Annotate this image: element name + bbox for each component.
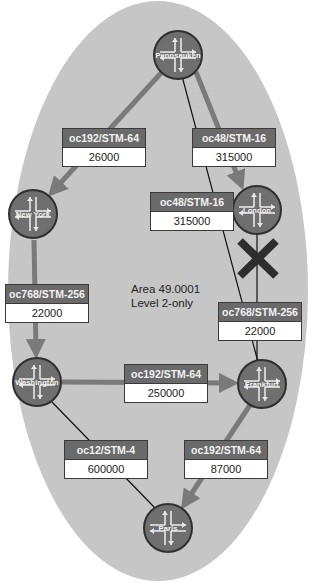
link-type: oc768/STM-256 xyxy=(219,303,301,322)
link-metric: 250000 xyxy=(125,384,207,402)
link-label-washington-frankfurt: oc192/STM-64 250000 xyxy=(124,364,208,403)
link-label-washington-paris: oc12/STM-4 600000 xyxy=(64,440,148,479)
link-metric: 600000 xyxy=(65,460,147,478)
router-name-newyork: New York xyxy=(9,210,57,219)
link-label-pennsauken-london: oc48/STM-16 315000 xyxy=(192,128,276,167)
router-name-paris: Paris xyxy=(144,524,192,533)
link-type: oc48/STM-16 xyxy=(193,129,275,148)
link-type: oc192/STM-64 xyxy=(63,129,145,148)
link-metric: 22000 xyxy=(6,304,88,322)
router-name-london: London xyxy=(233,206,281,215)
router-name-pennsauken: Pennsauken xyxy=(154,51,202,60)
link-label-pennsauken-newyork: oc192/STM-64 26000 xyxy=(62,128,146,167)
link-label-frankfurt-paris: oc192/STM-64 87000 xyxy=(184,440,268,479)
link-metric: 315000 xyxy=(151,212,233,230)
link-label-newyork-washington: oc768/STM-256 22000 xyxy=(5,284,89,323)
router-name-frankfurt: Frankfurt xyxy=(238,380,286,389)
area-level: Level 2-only xyxy=(131,296,200,310)
link-metric: 22000 xyxy=(219,322,301,340)
area-label: Area 49.0001 Level 2-only xyxy=(131,282,200,310)
link-type: oc192/STM-64 xyxy=(185,441,267,460)
link-type: oc48/STM-16 xyxy=(151,193,233,212)
link-label-london-frankfurt: oc768/STM-256 22000 xyxy=(218,302,302,341)
area-id: Area 49.0001 xyxy=(131,282,200,296)
link-metric: 87000 xyxy=(185,460,267,478)
link-type: oc768/STM-256 xyxy=(6,285,88,304)
link-metric: 315000 xyxy=(193,148,275,166)
link-type: oc192/STM-64 xyxy=(125,365,207,384)
link-label-pennsauken-frankfurt: oc48/STM-16 315000 xyxy=(150,192,234,231)
link-metric: 26000 xyxy=(63,148,145,166)
link-type: oc12/STM-4 xyxy=(65,441,147,460)
router-name-washington: Washington xyxy=(13,378,61,387)
